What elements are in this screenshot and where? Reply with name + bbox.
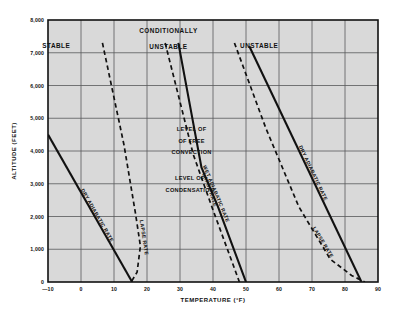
y-tick-label: 7,000 (30, 50, 44, 56)
region-label: UNSTABLE (240, 42, 279, 49)
y-axis-title: ALTITUDE (FEET) (11, 122, 17, 180)
y-tick-label: 8,000 (30, 17, 44, 23)
x-tick-label: 10 (111, 286, 117, 292)
x-tick-label: 80 (342, 286, 348, 292)
x-tick-label: 20 (144, 286, 150, 292)
y-tick-label: 5,000 (30, 115, 44, 121)
y-tick-label: 1,000 (30, 246, 44, 252)
atmospheric-stability-chart: —10010203040506070809001,0002,0003,0004,… (0, 0, 393, 316)
x-tick-label: 50 (243, 286, 249, 292)
y-tick-label: 0 (41, 279, 44, 285)
y-tick-label: 3,000 (30, 181, 44, 187)
x-tick-label: 70 (309, 286, 315, 292)
region-label: CONDITIONALLY (139, 27, 198, 34)
x-tick-label: 90 (375, 286, 381, 292)
annotation-label: CONVECTION (171, 149, 211, 155)
plot-area: —10010203040506070809001,0002,0003,0004,… (11, 17, 381, 303)
annotation-label: LEVEL OF (175, 175, 205, 181)
annotation-label: OF FREE (178, 138, 204, 144)
y-tick-label: 4,000 (30, 148, 44, 154)
region-label: UNSTABLE (149, 43, 188, 50)
x-tick-label: 60 (276, 286, 282, 292)
x-tick-label: 0 (79, 286, 82, 292)
y-tick-label: 6,000 (30, 83, 44, 89)
y-tick-label: 2,000 (30, 214, 44, 220)
chart-figure: —10010203040506070809001,0002,0003,0004,… (0, 0, 393, 316)
annotation-label: CONDENSATION (166, 187, 215, 193)
x-tick-label: 40 (210, 286, 216, 292)
x-tick-label: —10 (42, 286, 53, 292)
annotation-label: LEVEL OF (177, 126, 207, 132)
x-tick-label: 30 (177, 286, 183, 292)
region-label: STABLE (42, 42, 70, 49)
x-axis-title: TEMPERATURE (°F) (181, 297, 246, 303)
